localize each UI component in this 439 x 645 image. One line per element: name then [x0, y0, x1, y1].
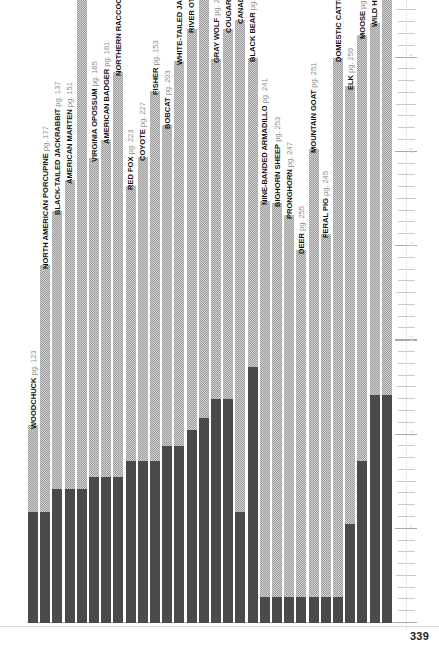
- ruler-tick-minor: [396, 292, 416, 293]
- bar-segment-solid: [187, 430, 197, 623]
- ruler-tick-minor: [398, 563, 415, 564]
- bar-label-name: COUGAR: [224, 0, 233, 33]
- bar-bighorn-sheep[interactable]: [272, 203, 282, 623]
- bar-deer[interactable]: [296, 250, 306, 623]
- bar-segment-hatched: [309, 149, 319, 597]
- bar-bobcat[interactable]: [162, 125, 172, 623]
- bar-segment-hatched: [235, 20, 245, 512]
- ruler-tick-minor: [398, 269, 415, 270]
- bar-american-marten[interactable]: [65, 180, 75, 623]
- ruler-tick-minor: [398, 33, 415, 34]
- page-number: 339: [410, 630, 429, 642]
- bar-segment-hatched: [126, 186, 136, 461]
- bar-segment-hatched: [40, 265, 50, 512]
- bar-northern-raccoon[interactable]: [113, 72, 123, 623]
- bar-label-name: DOMESTIC CATTLE: [334, 0, 343, 62]
- bar-label-name: COYOTE: [138, 130, 147, 162]
- ruler-number: 3: [409, 334, 413, 343]
- ruler-tick-minor: [398, 174, 415, 175]
- bar-mountain-goat[interactable]: [309, 149, 319, 623]
- bar-segment-solid: [296, 597, 306, 623]
- bar-fisher[interactable]: [150, 91, 160, 623]
- ruler-tick-minor: [398, 304, 415, 305]
- bar-segment-hatched: [187, 29, 197, 430]
- bar-segment-solid: [272, 597, 282, 623]
- ruler-tick-minor: [398, 68, 415, 69]
- bar-american-beaver[interactable]: [199, 0, 209, 623]
- bar-label-page: pg. 123: [29, 351, 38, 376]
- bar-label-name: NORTHERN RACCOON: [114, 0, 123, 76]
- bar-virginia-opossum[interactable]: [89, 158, 99, 623]
- ruler-tick-minor: [398, 316, 415, 317]
- bar-label-page: pg. 241: [260, 78, 269, 103]
- bar-red-fox[interactable]: [126, 186, 136, 623]
- bar-label: DOMESTIC CATTLE pg. 271: [334, 0, 343, 62]
- ruler-tick-minor: [398, 516, 415, 517]
- bar-segment-solid: [248, 367, 258, 623]
- bar-gray-wolf[interactable]: [211, 59, 221, 623]
- bar-cougar[interactable]: [223, 29, 233, 623]
- bar-label-page: pg. 235: [212, 0, 221, 16]
- bar-segment-solid: [150, 461, 160, 623]
- ruler-tick-minor: [396, 9, 416, 10]
- ruler-tick-major: [395, 528, 417, 529]
- ruler-number: 6: [409, 52, 413, 61]
- ruler-tick-major: [395, 151, 417, 152]
- bar-black-tailed-jackrabbit[interactable]: [52, 211, 62, 623]
- ruler-tick-minor: [398, 551, 415, 552]
- bar-segment-solid: [260, 597, 270, 623]
- ruler-tick-minor: [396, 481, 416, 482]
- bar-segment-solid: [370, 395, 380, 623]
- bar-label-page: pg. 161: [102, 41, 111, 66]
- bar-river-otter[interactable]: [187, 29, 197, 623]
- bar-label: NORTH AMERICAN PORCUPINE pg. 177: [41, 126, 50, 269]
- bar-nine-banded-armadillo[interactable]: [260, 201, 270, 623]
- bar-label: DEER pg. 255: [297, 206, 306, 254]
- ruler-tick-minor: [398, 115, 415, 116]
- bar-segment-solid: [89, 477, 99, 623]
- bar-label-name: NORTH AMERICAN PORCUPINE: [41, 153, 50, 269]
- bar-north-american-porcupine[interactable]: [40, 265, 50, 623]
- bar-black-bear[interactable]: [248, 58, 258, 623]
- ruler-number: 2: [409, 429, 413, 438]
- bar-american-bison[interactable]: [382, 0, 392, 623]
- bar-white-tailed-jackrabbit[interactable]: [174, 61, 184, 623]
- bar-label-page: pg. 137: [53, 82, 62, 107]
- bar-wild-horse[interactable]: [370, 23, 380, 623]
- bar-segment-hatched: [65, 180, 75, 489]
- bar-segment-hatched: [382, 0, 392, 395]
- bar-label-name: WILD HORSE: [370, 0, 379, 27]
- bar-label: MOUNTAIN GOAT pg. 251: [309, 63, 318, 153]
- bar-segment-solid: [52, 489, 62, 623]
- chart-page: WOODCHUCK pg. 123NORTH AMERICAN PORCUPIN…: [0, 0, 439, 645]
- ruler-tick-minor: [398, 327, 415, 328]
- bar-label: RIVER OTTER pg. 157: [187, 0, 196, 33]
- bar-american-badger[interactable]: [101, 140, 111, 623]
- bar-segment-hatched: [272, 203, 282, 597]
- bar-woodchuck[interactable]: [28, 425, 38, 623]
- bar-segment-solid: [333, 597, 343, 623]
- bar-segment-hatched: [345, 86, 355, 524]
- bar-pronghorn[interactable]: [284, 215, 294, 623]
- bar-label-page: pg. 151: [65, 82, 74, 107]
- bar-label: BLACK BEAR pg. 193: [248, 0, 257, 62]
- ruler-tick-minor: [396, 575, 416, 576]
- footer-divider: [0, 626, 439, 627]
- bar-label-name: FISHER: [151, 68, 160, 96]
- ruler-tick-minor: [398, 127, 415, 128]
- bar-label-name: ELK: [346, 75, 355, 90]
- bar-segment-solid: [235, 512, 245, 623]
- bar-label-page: pg. 255: [297, 206, 306, 231]
- bar-moose[interactable]: [357, 35, 367, 623]
- bar-snowshoe-hare[interactable]: [77, 0, 87, 623]
- ruler-tick-minor: [398, 139, 415, 140]
- bar-canada-lynx[interactable]: [235, 20, 245, 623]
- bar-coyote[interactable]: [138, 157, 148, 623]
- bar-domestic-cattle[interactable]: [333, 58, 343, 623]
- bar-feral-pig[interactable]: [321, 234, 331, 623]
- bar-label-page: pg. 203: [163, 71, 172, 96]
- bar-label-page: pg. 227: [138, 103, 147, 128]
- bar-label: FISHER pg. 153: [151, 41, 160, 96]
- bar-elk[interactable]: [345, 86, 355, 623]
- bar-segment-solid: [357, 461, 367, 623]
